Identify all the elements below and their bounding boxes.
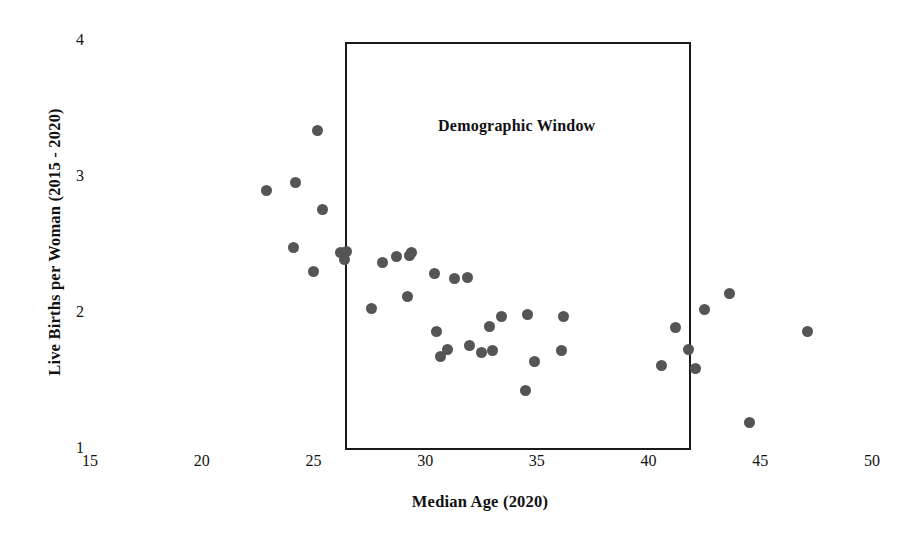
x-axis-label: Median Age (2020) (280, 492, 680, 512)
scatter-point (312, 125, 323, 136)
x-tick-label: 45 (740, 452, 780, 470)
scatter-plot-figure: Live Births per Woman (2015 - 2020) Medi… (0, 0, 915, 540)
scatter-point (290, 177, 301, 188)
x-tick-label: 30 (405, 452, 445, 470)
y-tick-label: 1 (48, 439, 84, 457)
scatter-point (261, 185, 272, 196)
scatter-point (802, 326, 813, 337)
x-tick-label: 20 (182, 452, 222, 470)
scatter-point (724, 288, 735, 299)
scatter-point (744, 417, 755, 428)
y-tick-label: 2 (48, 303, 84, 321)
scatter-point (317, 204, 328, 215)
scatter-point (288, 242, 299, 253)
scatter-point (690, 363, 701, 374)
demographic-window-label: Demographic Window (438, 117, 595, 135)
x-tick-label: 40 (629, 452, 669, 470)
y-tick-label: 4 (48, 31, 84, 49)
x-tick-label: 50 (852, 452, 892, 470)
x-tick-label: 25 (293, 452, 333, 470)
y-axis-label: Live Births per Woman (2015 - 2020) (40, 22, 70, 462)
y-tick-label: 3 (48, 167, 84, 185)
scatter-point (699, 304, 710, 315)
demographic-window-box (345, 42, 691, 450)
x-tick-label: 35 (517, 452, 557, 470)
scatter-point (308, 266, 319, 277)
